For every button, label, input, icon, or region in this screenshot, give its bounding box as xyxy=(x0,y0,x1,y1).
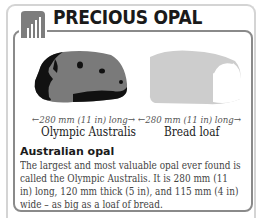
opal-caption: Olympic Australis xyxy=(41,125,136,139)
section-heading: Australian opal xyxy=(20,145,114,158)
hand-chart-icon xyxy=(19,10,47,42)
loaf-caption: Bread loaf xyxy=(164,125,219,139)
section-body: The largest and most valuable opal ever … xyxy=(20,159,243,211)
bread-loaf-icon xyxy=(147,47,242,105)
opal-icon xyxy=(33,49,128,104)
opal-measurement: ←280 mm (11 in) long→ xyxy=(32,114,135,125)
page-title: PRECIOUS OPAL xyxy=(53,6,202,28)
loaf-measurement: ←280 mm (11 in) long→ xyxy=(138,114,241,125)
